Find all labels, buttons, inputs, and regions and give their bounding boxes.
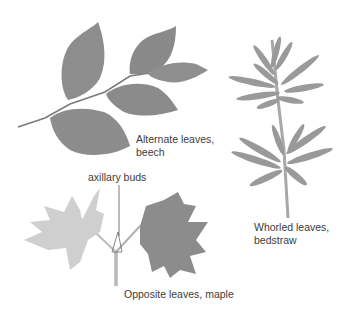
whorled-leaves-bedstraw [228, 36, 334, 218]
label-axillary-buds: axillary buds [88, 171, 146, 184]
maple-leaf-light [24, 188, 104, 270]
label-alternate-leaves: Alternate leaves, beech [136, 133, 214, 159]
leaf-arrangement-diagram: Alternate leaves, beech Whorled leaves, … [0, 0, 345, 310]
opposite-leaves-maple [24, 185, 208, 286]
label-opposite-leaves: Opposite leaves, maple [124, 288, 234, 301]
label-whorled-leaves: Whorled leaves, bedstraw [254, 221, 329, 247]
maple-leaf-dark [140, 192, 208, 278]
